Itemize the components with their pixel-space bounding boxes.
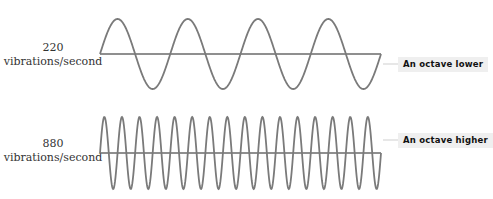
low-wave-group (100, 19, 398, 89)
octave-higher-callout: An octave higher (398, 133, 493, 148)
octave-lower-callout: An octave lower (398, 57, 488, 72)
high-wave-group (100, 117, 398, 189)
